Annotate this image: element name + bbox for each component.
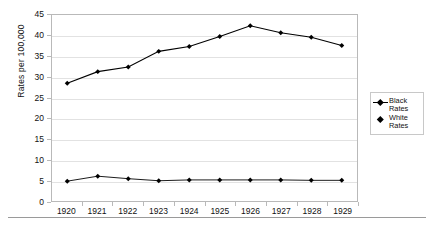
data-point-marker: [65, 81, 70, 86]
legend-marker-white-rates-icon: [372, 114, 389, 125]
data-point-marker: [278, 177, 283, 182]
y-axis-tick-label: 20: [14, 114, 44, 122]
legend-label-white-rates: WhiteRates: [389, 114, 408, 130]
legend-marker-black-rates-icon: [372, 97, 389, 108]
data-point-marker: [126, 176, 131, 181]
y-axis-tick-label: 45: [14, 10, 44, 18]
series-line-black-rates: [67, 26, 342, 83]
horizontal-rule: [8, 217, 426, 218]
plot-area: [51, 14, 358, 202]
y-axis-tick-mark: [47, 202, 51, 203]
data-point-marker: [339, 43, 344, 48]
data-point-marker: [339, 178, 344, 183]
x-axis-tick-label: 1929: [323, 206, 363, 216]
data-point-marker: [187, 177, 192, 182]
series-line-white-rates: [67, 176, 342, 181]
y-axis-tick-label: 5: [14, 177, 44, 185]
y-axis-title: Rates per 100,000: [16, 1, 26, 121]
y-axis-tick-label: 0: [14, 198, 44, 206]
data-point-marker: [217, 177, 222, 182]
data-point-marker: [126, 65, 131, 70]
y-axis-tick-label: 25: [14, 94, 44, 102]
y-axis-tick-label: 15: [14, 135, 44, 143]
x-axis-tick-mark: [358, 202, 359, 206]
legend-item-black-rates[interactable]: BlackRates: [372, 97, 421, 113]
data-point-marker: [248, 177, 253, 182]
chart-figure: Rates per 100,000 051015202530354045 192…: [0, 0, 434, 227]
data-point-marker: [217, 34, 222, 39]
data-point-marker: [95, 174, 100, 179]
y-axis-tick-label: 10: [14, 156, 44, 164]
data-point-marker: [65, 179, 70, 184]
data-point-marker: [187, 44, 192, 49]
legend-label-black-rates: BlackRates: [389, 97, 408, 113]
legend-item-white-rates[interactable]: WhiteRates: [372, 114, 421, 130]
data-point-marker: [309, 35, 314, 40]
y-axis-tick-label: 30: [14, 73, 44, 81]
y-axis-tick-label: 35: [14, 52, 44, 60]
data-series-layer: [52, 15, 357, 201]
data-point-marker: [156, 49, 161, 54]
legend: BlackRates WhiteRates: [370, 92, 424, 135]
data-point-marker: [95, 69, 100, 74]
data-point-marker: [156, 178, 161, 183]
data-point-marker: [248, 23, 253, 28]
data-point-marker: [278, 30, 283, 35]
y-axis-tick-label: 40: [14, 31, 44, 39]
data-point-marker: [309, 178, 314, 183]
